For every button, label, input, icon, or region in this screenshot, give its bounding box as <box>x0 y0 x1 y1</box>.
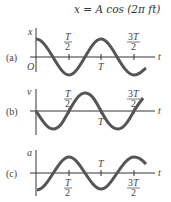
svg-text:t: t <box>158 51 161 62</box>
svg-text:2: 2 <box>65 98 70 109</box>
svg-text:O: O <box>27 61 34 72</box>
svg-text:2: 2 <box>131 98 136 109</box>
panel-b: v (b) t T 2 T 3T 2 <box>6 86 161 135</box>
svg-text:t: t <box>158 105 161 116</box>
svg-text:(c): (c) <box>6 168 17 180</box>
svg-text:t: t <box>158 167 161 178</box>
panel-a: x O (a) t T 2 T 3T 2 <box>6 26 161 75</box>
svg-text:T: T <box>98 158 105 169</box>
svg-text:T: T <box>98 61 105 72</box>
svg-text:x: x <box>27 26 33 37</box>
svg-text:2: 2 <box>131 187 136 198</box>
svg-text:a: a <box>27 147 32 158</box>
svg-text:2: 2 <box>131 41 136 52</box>
svg-text:2: 2 <box>65 41 70 52</box>
svg-text:v: v <box>27 86 32 97</box>
svg-text:(a): (a) <box>6 52 17 64</box>
panel-c: a (c) t T T 2 3T 2 <box>6 147 161 198</box>
svg-text:(b): (b) <box>6 106 18 118</box>
diagram: x O (a) t T 2 T 3T 2 v (b) t T 2 T 3T 2 <box>0 0 171 202</box>
svg-text:2: 2 <box>65 187 70 198</box>
